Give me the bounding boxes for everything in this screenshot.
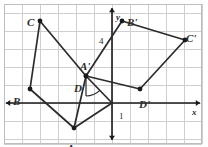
vertex-label-c-prime: C' bbox=[186, 33, 196, 44]
y-axis-label: y bbox=[116, 13, 120, 22]
vertex-dot bbox=[38, 19, 43, 24]
vertex-dot bbox=[72, 126, 77, 131]
vertex-dot bbox=[120, 19, 125, 24]
tick-label-4: 4 bbox=[99, 37, 104, 46]
vertex-dot bbox=[138, 87, 143, 92]
x-axis-label: x bbox=[192, 108, 197, 117]
vertex-dot bbox=[28, 87, 33, 92]
vertex-label-b-prime: B' bbox=[127, 17, 137, 28]
tick-label-1: 1 bbox=[119, 112, 124, 121]
vertex-label-b: B bbox=[13, 96, 20, 107]
vertex-label-d-prime: D' bbox=[139, 99, 150, 110]
vertex-label-d: D bbox=[74, 83, 82, 94]
vertex-dot bbox=[84, 74, 89, 79]
geometry-figure-container: ABCDA'B'C'D'xy41 bbox=[0, 0, 208, 147]
vertex-label-a: A bbox=[67, 143, 74, 147]
vertex-label-a-prime: A' bbox=[80, 61, 90, 72]
vertex-label-c: C bbox=[27, 17, 34, 28]
